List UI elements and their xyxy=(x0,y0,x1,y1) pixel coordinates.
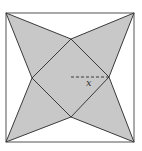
geometry-figure: x xyxy=(0,0,142,151)
label-x: x xyxy=(86,77,92,88)
